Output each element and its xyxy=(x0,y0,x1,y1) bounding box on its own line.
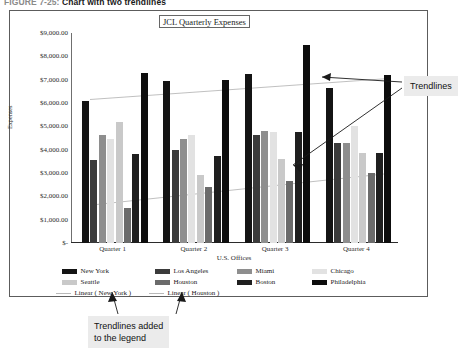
legend-color-swatch-icon xyxy=(155,269,170,274)
legend-label: Houston xyxy=(174,278,198,286)
bar[interactable] xyxy=(132,154,139,243)
legend-label: Los Angeles xyxy=(174,267,209,275)
bar[interactable] xyxy=(82,101,89,243)
legend-line-swatch-icon xyxy=(56,293,71,294)
chart-title: JCL Quarterly Expenses xyxy=(159,15,250,28)
legend-label: Boston xyxy=(256,278,276,286)
bar[interactable] xyxy=(368,173,375,243)
bar[interactable] xyxy=(359,153,366,243)
legend-item[interactable]: Boston xyxy=(237,278,312,286)
y-axis-tick: $- xyxy=(62,239,68,247)
bar[interactable] xyxy=(222,80,229,243)
bar[interactable] xyxy=(286,181,293,243)
legend-line-swatch-icon xyxy=(149,293,164,294)
legend-item[interactable]: Seattle xyxy=(62,278,155,286)
bar[interactable] xyxy=(107,139,114,243)
legend-item[interactable]: Chicago xyxy=(312,267,392,275)
bar[interactable] xyxy=(197,175,204,243)
y-axis-tick: $9,000.00 xyxy=(40,29,68,37)
bar[interactable] xyxy=(303,45,310,243)
y-axis-tick: $8,000.00 xyxy=(40,52,68,60)
bar[interactable] xyxy=(90,160,97,243)
legend-item[interactable]: New York xyxy=(62,267,155,275)
bar-group xyxy=(245,33,311,243)
figure-number: FIGURE 7-25: xyxy=(4,0,60,7)
bar[interactable] xyxy=(376,153,383,243)
figure-caption: FIGURE 7-25: Chart with two trendlines xyxy=(4,0,166,7)
legend-label: Chicago xyxy=(331,267,354,275)
bar[interactable] xyxy=(99,135,106,244)
bar[interactable] xyxy=(172,150,179,243)
legend-row: Linear ( New York )Linear ( Houston ) xyxy=(56,289,392,297)
bar[interactable] xyxy=(245,74,252,243)
y-axis-tick: $6,000.00 xyxy=(40,99,68,107)
bar[interactable] xyxy=(253,135,260,244)
bar[interactable] xyxy=(163,81,170,243)
chart-frame: JCL Quarterly Expenses Expenses $9,000.0… xyxy=(9,10,428,297)
x-axis-label: U.S. Offices xyxy=(217,254,252,262)
legend-color-swatch-icon xyxy=(62,269,77,274)
bar[interactable] xyxy=(334,143,341,243)
legend-color-swatch-icon xyxy=(155,280,170,285)
bar[interactable] xyxy=(270,132,277,243)
bar[interactable] xyxy=(261,131,268,243)
bar-group xyxy=(326,33,392,243)
legend-label: Linear ( New York ) xyxy=(75,289,132,297)
legend-item[interactable]: Miami xyxy=(237,267,312,275)
legend-row: New YorkLos AngelesMiamiChicago xyxy=(62,267,392,275)
bar[interactable] xyxy=(116,122,123,243)
x-axis-tick: Quarter 4 xyxy=(343,245,370,253)
bar-group xyxy=(82,33,148,243)
chart-legend: New YorkLos AngelesMiamiChicagoSeattleHo… xyxy=(62,267,392,301)
bar[interactable] xyxy=(326,88,333,243)
y-axis-tick: $3,000.00 xyxy=(40,169,68,177)
callout-trendlines: Trendlines xyxy=(404,76,458,96)
legend-color-swatch-icon xyxy=(62,280,77,285)
legend-color-swatch-icon xyxy=(312,280,327,285)
y-axis-tick: $1,000.00 xyxy=(40,216,68,224)
bar[interactable] xyxy=(124,208,131,243)
plot-area xyxy=(72,33,397,243)
y-axis-tick: $4,000.00 xyxy=(40,146,68,154)
x-axis-tick: Quarter 3 xyxy=(262,245,289,253)
y-axis-tick: $7,000.00 xyxy=(40,76,68,84)
y-axis-tick: $2,000.00 xyxy=(40,192,68,200)
legend-label: Miami xyxy=(256,267,275,275)
x-axis-tick: Quarter 2 xyxy=(181,245,208,253)
bar[interactable] xyxy=(278,159,285,243)
legend-item[interactable]: Los Angeles xyxy=(155,267,237,275)
legend-label: Seattle xyxy=(81,278,100,286)
legend-color-swatch-icon xyxy=(237,280,252,285)
bar-group xyxy=(163,33,229,243)
legend-label: Philadelphia xyxy=(331,278,366,286)
legend-color-swatch-icon xyxy=(312,269,327,274)
legend-color-swatch-icon xyxy=(237,269,252,274)
legend-label: Linear ( Houston ) xyxy=(168,289,220,297)
bar[interactable] xyxy=(214,156,221,244)
y-axis-tick: $5,000.00 xyxy=(40,122,68,130)
legend-item[interactable]: Linear ( New York ) xyxy=(56,289,149,297)
legend-row: SeattleHoustonBostonPhiladelphia xyxy=(62,278,392,286)
bar[interactable] xyxy=(351,126,358,243)
bar[interactable] xyxy=(343,143,350,243)
callout-legend-note: Trendlines added to the legend xyxy=(88,316,169,348)
x-axis-tick: Quarter 1 xyxy=(99,245,126,253)
bar[interactable] xyxy=(141,73,148,243)
bar[interactable] xyxy=(295,132,302,243)
bar[interactable] xyxy=(205,187,212,243)
y-axis-ticks: $9,000.00$8,000.00$7,000.00$6,000.00$5,0… xyxy=(10,33,68,243)
legend-item[interactable]: Philadelphia xyxy=(312,278,392,286)
figure-caption-text: Chart with two trendlines xyxy=(62,0,166,7)
bar[interactable] xyxy=(188,135,195,244)
legend-item[interactable]: Linear ( Houston ) xyxy=(149,289,249,297)
bar[interactable] xyxy=(384,75,391,243)
legend-item[interactable]: Houston xyxy=(155,278,237,286)
legend-label: New York xyxy=(81,267,109,275)
bar[interactable] xyxy=(180,139,187,243)
